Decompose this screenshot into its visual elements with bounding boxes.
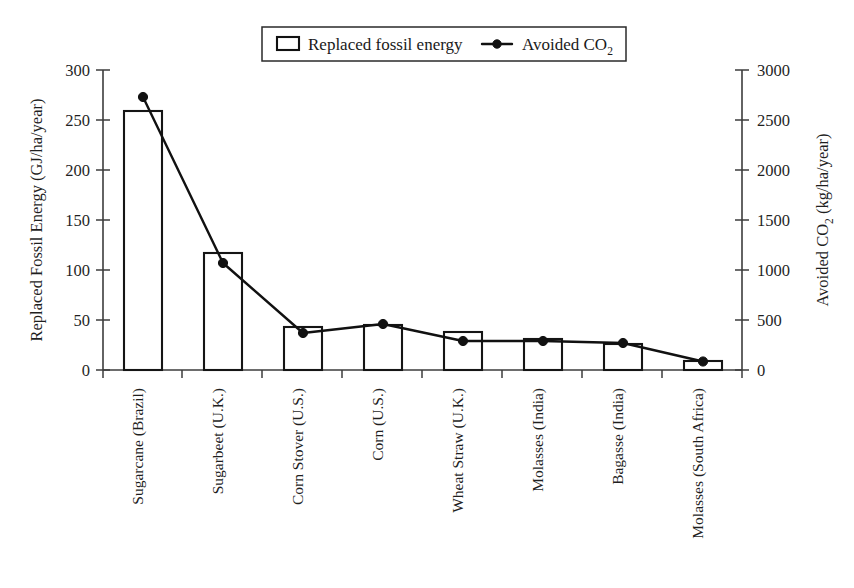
right-axis-label-2000: 2000 [757, 161, 790, 180]
left-axis-label-50: 50 [74, 311, 91, 330]
bar-sugarbeet-uk [204, 253, 242, 370]
category-label-molasses-india: Molasses (India) [529, 388, 547, 492]
bar-sugarcane-brazil [124, 111, 162, 370]
left-axis-label-300: 300 [65, 61, 90, 80]
category-label-molasses-south-africa: Molasses (South Africa) [689, 388, 707, 539]
left-axis-label-250: 250 [65, 111, 90, 130]
right-axis-label-1500: 1500 [757, 211, 790, 230]
right-axis-label-3000: 3000 [757, 61, 790, 80]
legend-label-avoided-co2-text: Avoided CO [522, 35, 607, 54]
left-axis-label-0: 0 [82, 361, 90, 380]
point-corn-us [378, 319, 387, 328]
right-axis-title-suffix: (kg/ha/year) [813, 133, 832, 218]
bar-corn-us [364, 325, 402, 370]
category-label-sugarbeet-uk: Sugarbeet (U.K.) [209, 388, 227, 494]
left-axis-label-200: 200 [65, 161, 90, 180]
right-axis-label-500: 500 [757, 311, 782, 330]
point-sugarcane-brazil [138, 92, 147, 101]
left-axis-label-150: 150 [65, 211, 90, 230]
legend-swatch-replaced-fossil-energy [277, 37, 299, 50]
left-axis-label-100: 100 [65, 261, 90, 280]
category-label-bagasse-india: Bagasse (India) [609, 388, 627, 485]
right-axis-label-1000: 1000 [757, 261, 790, 280]
chart-figure: Replaced fossil energy Avoided CO2 300 2… [0, 0, 854, 588]
right-axis-title-prefix: Avoided CO [813, 224, 832, 307]
left-axis-title: Replaced Fossil Energy (GJ/ha/year) [27, 98, 46, 341]
right-axis-label-2500: 2500 [757, 111, 790, 130]
right-axis-label-0: 0 [757, 361, 765, 380]
point-wheat-straw-uk [458, 336, 467, 345]
point-bagasse-india [618, 338, 627, 347]
point-corn-stover-us [298, 328, 307, 337]
chart-svg: Replaced fossil energy Avoided CO2 300 2… [0, 0, 854, 588]
category-label-corn-stover-us: Corn Stover (U.S.) [289, 388, 307, 505]
category-label-corn-us: Corn (U.S.) [369, 388, 387, 461]
legend-label-replaced-fossil-energy: Replaced fossil energy [308, 35, 463, 54]
point-sugarbeet-uk [218, 258, 227, 267]
legend: Replaced fossil energy Avoided CO2 [262, 27, 626, 61]
legend-label-avoided-co2: Avoided CO2 [522, 35, 613, 57]
point-molasses-india [538, 336, 547, 345]
category-label-wheat-straw-uk: Wheat Straw (U.K.) [449, 388, 467, 513]
point-molasses-south-africa [698, 357, 707, 366]
category-label-sugarcane-brazil: Sugarcane (Brazil) [129, 388, 147, 505]
legend-label-avoided-co2-subscript: 2 [607, 45, 613, 57]
